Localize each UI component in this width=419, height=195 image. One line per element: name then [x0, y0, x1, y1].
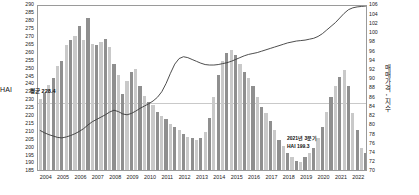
right-tick-80: 80	[369, 122, 385, 127]
right-tick-72: 72	[369, 159, 385, 164]
left-tick-255: 255	[19, 58, 34, 63]
right-tick-104: 104	[369, 12, 385, 17]
left-tick-250: 250	[19, 66, 34, 71]
left-tick-200: 200	[19, 145, 34, 150]
right-tick-98: 98	[369, 39, 385, 44]
right-tick-90: 90	[369, 76, 385, 81]
right-tick-102: 102	[369, 21, 385, 26]
latest-value-annotation: 2021년 3분기 HAI 199.3	[287, 135, 317, 150]
average-annotation: 평균 228.4	[30, 88, 56, 96]
left-tick-230: 230	[19, 97, 34, 102]
left-axis-title: HAI	[0, 86, 12, 93]
left-tick-195: 195	[19, 153, 34, 158]
right-tick-70: 70	[369, 168, 385, 173]
x-tick-2022: 2022	[347, 174, 369, 180]
right-tick-92: 92	[369, 67, 385, 72]
right-tick-82: 82	[369, 113, 385, 118]
left-tick-240: 240	[19, 81, 34, 86]
right-tick-96: 96	[369, 49, 385, 54]
right-tick-76: 76	[369, 141, 385, 146]
left-tick-260: 260	[19, 50, 34, 55]
right-tick-74: 74	[369, 150, 385, 155]
right-tick-100: 100	[369, 30, 385, 35]
left-tick-220: 220	[19, 113, 34, 118]
left-tick-270: 270	[19, 34, 34, 39]
right-tick-84: 84	[369, 104, 385, 109]
left-tick-205: 205	[19, 137, 34, 142]
left-tick-185: 185	[19, 168, 34, 173]
left-tick-275: 275	[19, 26, 34, 31]
line-series-price-index	[38, 6, 367, 171]
right-tick-86: 86	[369, 95, 385, 100]
left-tick-285: 285	[19, 10, 34, 15]
left-tick-290: 290	[19, 2, 34, 7]
right-tick-94: 94	[369, 58, 385, 63]
left-tick-265: 265	[19, 42, 34, 47]
left-tick-280: 280	[19, 18, 34, 23]
plot-area	[37, 5, 367, 171]
left-tick-245: 245	[19, 74, 34, 79]
right-tick-106: 106	[369, 2, 385, 7]
right-tick-88: 88	[369, 85, 385, 90]
latest-period-label: 2021년 3분기	[287, 135, 317, 143]
right-tick-78: 78	[369, 132, 385, 137]
left-tick-215: 215	[19, 121, 34, 126]
left-tick-190: 190	[19, 160, 34, 165]
hai-price-index-chart: HAI 매매가격 - 지수 29028528027527026526025525…	[0, 0, 419, 195]
left-tick-210: 210	[19, 129, 34, 134]
left-tick-225: 225	[19, 105, 34, 110]
latest-hai-label: HAI 199.3	[287, 143, 317, 151]
